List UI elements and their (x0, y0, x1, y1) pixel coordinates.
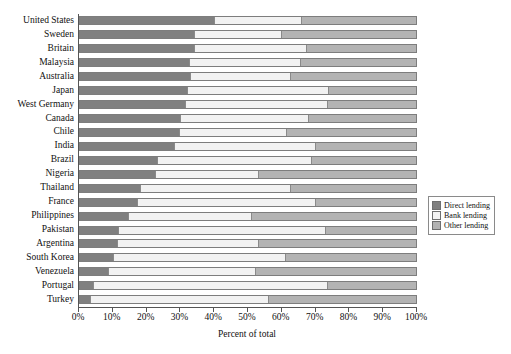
bar-category-label: Nigeria (46, 170, 75, 180)
bar-segment-other-lending (328, 87, 416, 94)
bar-row: Japan (79, 84, 417, 98)
bar-segment-direct-lending (80, 17, 214, 24)
bar-segment-other-lending (251, 213, 416, 220)
bar-category-label: Japan (52, 86, 74, 96)
bar-segment-other-lending (258, 171, 416, 178)
bar-segment-bank-lending (157, 157, 312, 164)
bar-row: Brazil (79, 153, 417, 167)
bar-segment-other-lending (258, 240, 416, 247)
bar-segment-other-lending (325, 227, 416, 234)
bar-segment-other-lending (315, 143, 416, 150)
bar-segment-direct-lending (80, 282, 93, 289)
bar-segment-direct-lending (80, 143, 174, 150)
bar-segment-other-lending (308, 115, 416, 122)
bar-category-label: Brazil (51, 156, 74, 166)
bar-segment-direct-lending (80, 171, 155, 178)
bar-segment-other-lending (327, 282, 417, 289)
bar-segment-bank-lending (185, 101, 326, 108)
bar-segment-bank-lending (128, 213, 251, 220)
bar-row: Australia (79, 70, 417, 84)
bar-category-label: South Korea (26, 253, 74, 263)
bar-segment-other-lending (315, 199, 416, 206)
bar-row: France (79, 195, 417, 209)
bar-segment-direct-lending (80, 157, 157, 164)
bar-track (79, 72, 417, 81)
bar-segment-direct-lending (80, 31, 194, 38)
legend-item-direct-lending: Direct lending (432, 201, 490, 210)
bar-track (79, 58, 417, 67)
x-axis-tick-label: 60% (272, 313, 289, 323)
bar-segment-bank-lending (117, 240, 258, 247)
bar-segment-bank-lending (194, 45, 307, 52)
bar-segment-direct-lending (80, 240, 117, 247)
bar-category-label: Turkey (47, 295, 74, 305)
bar-segment-other-lending (268, 296, 416, 303)
bar-segment-direct-lending (80, 45, 194, 52)
bar-row: Sweden (79, 28, 417, 42)
bar-segment-other-lending (311, 157, 416, 164)
bar-segment-bank-lending (140, 185, 290, 192)
stacked-bar-chart: United StatesSwedenBritainMalaysiaAustra… (0, 0, 511, 354)
bar-segment-direct-lending (80, 73, 190, 80)
bar-category-label: Venezuela (35, 267, 74, 277)
bar-segment-bank-lending (190, 73, 290, 80)
bar-segment-direct-lending (80, 87, 187, 94)
bar-track (79, 198, 417, 207)
bar-category-label: Sweden (44, 30, 74, 40)
bar-track (79, 295, 417, 304)
x-axis-tick-label: 10% (103, 313, 120, 323)
bar-track (79, 156, 417, 165)
x-axis-title: Percent of total (78, 330, 416, 340)
bar-row: India (79, 139, 417, 153)
bar-segment-bank-lending (137, 199, 315, 206)
legend-item-bank-lending: Bank lending (432, 211, 490, 220)
bar-track (79, 239, 417, 248)
bar-category-label: Britain (48, 44, 74, 54)
bar-segment-bank-lending (155, 171, 258, 178)
bar-track (79, 142, 417, 151)
bar-category-label: Chile (53, 128, 74, 138)
bar-category-label: Portugal (42, 281, 74, 291)
bar-row: Philippines (79, 209, 417, 223)
bar-segment-other-lending (255, 268, 416, 275)
x-axis-tick-label: 100% (405, 313, 427, 323)
x-axis-tick-label: 30% (171, 313, 188, 323)
bar-row: Malaysia (79, 56, 417, 70)
bar-segment-other-lending (306, 45, 416, 52)
bar-track (79, 184, 417, 193)
bar-category-label: Pakistan (42, 225, 74, 235)
legend-item-other-lending: Other lending (432, 221, 490, 230)
bar-segment-direct-lending (80, 213, 128, 220)
bar-row: Thailand (79, 181, 417, 195)
bar-category-label: United States (23, 16, 74, 26)
bar-track (79, 212, 417, 221)
bar-segment-bank-lending (90, 296, 268, 303)
bar-rows: United StatesSwedenBritainMalaysiaAustra… (79, 14, 417, 307)
bar-category-label: Australia (39, 72, 74, 82)
bar-track (79, 128, 417, 137)
bar-segment-other-lending (290, 73, 416, 80)
legend: Direct lending Bank lending Other lendin… (428, 196, 495, 235)
legend-label-other-lending: Other lending (444, 222, 488, 230)
x-axis-tick-label: 90% (373, 313, 390, 323)
bar-track (79, 281, 417, 290)
bar-row: Nigeria (79, 167, 417, 181)
bar-segment-direct-lending (80, 268, 108, 275)
bar-row: Venezuela (79, 265, 417, 279)
bar-track (79, 114, 417, 123)
legend-swatch-direct-lending (432, 201, 441, 210)
bar-row: Pakistan (79, 223, 417, 237)
bar-track (79, 267, 417, 276)
bar-segment-bank-lending (113, 254, 284, 261)
bar-segment-bank-lending (174, 143, 315, 150)
bar-segment-bank-lending (214, 17, 302, 24)
legend-swatch-other-lending (432, 221, 441, 230)
x-axis-tick-label: 70% (306, 313, 323, 323)
bar-segment-direct-lending (80, 101, 185, 108)
bar-category-label: West Germany (18, 100, 74, 110)
bar-segment-direct-lending (80, 129, 179, 136)
x-axis-tick-label: 40% (204, 313, 221, 323)
plot-area: United StatesSwedenBritainMalaysiaAustra… (78, 14, 417, 307)
bar-segment-bank-lending (187, 87, 328, 94)
bar-segment-bank-lending (179, 129, 287, 136)
